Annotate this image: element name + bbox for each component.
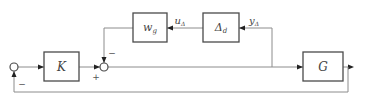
sum-junction-input xyxy=(10,63,18,71)
block-k-label: K xyxy=(56,60,67,74)
sign-plus-left: + xyxy=(92,72,100,82)
block-diagram: K G wg Δd uΔ yΔ − − + xyxy=(0,0,378,100)
arrow-output xyxy=(348,65,354,70)
arrow-into-g xyxy=(297,65,303,70)
arrow-feedback xyxy=(12,71,17,77)
block-g-label: G xyxy=(318,60,328,74)
signal-u-delta-label: uΔ xyxy=(175,15,186,27)
sum-junction-inner xyxy=(100,63,108,71)
arrow-wg-into-sum2 xyxy=(102,57,107,63)
wire-y-delta xyxy=(239,28,272,67)
arrow-into-k xyxy=(38,65,44,70)
sign-minus-top: − xyxy=(108,48,116,58)
arrow-into-sum2 xyxy=(94,65,100,70)
sign-minus-feedback: − xyxy=(18,79,26,89)
signal-y-delta-label: yΔ xyxy=(248,15,259,27)
arrow-into-delta xyxy=(239,26,245,31)
arrow-into-wg xyxy=(167,26,173,31)
